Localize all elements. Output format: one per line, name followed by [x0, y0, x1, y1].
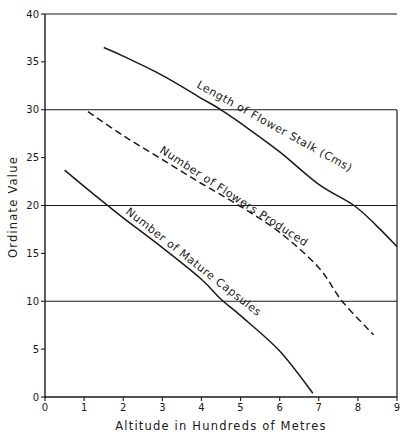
y-tick-label: 30 — [26, 104, 39, 115]
x-tick-label: 2 — [120, 402, 126, 413]
x-axis-ticks: 0123456789 — [42, 397, 400, 413]
y-axis-ticks: 0510152025303540 — [26, 9, 45, 403]
x-tick-label: 9 — [394, 402, 400, 413]
x-tick-label: 0 — [42, 402, 48, 413]
curve-label-flower-stalk: Length of Flower Stalk (Cms) — [195, 78, 355, 175]
x-tick-label: 8 — [355, 402, 361, 413]
y-tick-label: 15 — [26, 248, 39, 259]
curve-mature-capsules — [65, 170, 313, 393]
x-tick-label: 7 — [316, 402, 322, 413]
x-tick-label: 6 — [276, 402, 282, 413]
x-tick-label: 5 — [237, 402, 243, 413]
y-axis-title: Ordinate Value — [6, 156, 20, 258]
curve-label-mature-capsules: Number of Mature Capsules — [123, 205, 264, 319]
line-chart: 0510152025303540 0123456789 Length of Fl… — [0, 0, 408, 439]
y-tick-label: 25 — [26, 152, 39, 163]
curve-label-flowers-produced: Number of Flowers Produced — [157, 144, 310, 250]
x-tick-label: 4 — [198, 402, 204, 413]
y-tick-label: 35 — [26, 56, 39, 67]
x-tick-label: 3 — [159, 402, 165, 413]
x-tick-label: 1 — [81, 402, 87, 413]
y-tick-label: 20 — [26, 200, 39, 211]
y-tick-label: 0 — [33, 392, 39, 403]
y-tick-label: 10 — [26, 296, 39, 307]
x-axis-title: Altitude in Hundreds of Metres — [115, 419, 327, 433]
y-tick-label: 5 — [33, 344, 39, 355]
y-tick-label: 40 — [26, 9, 39, 20]
